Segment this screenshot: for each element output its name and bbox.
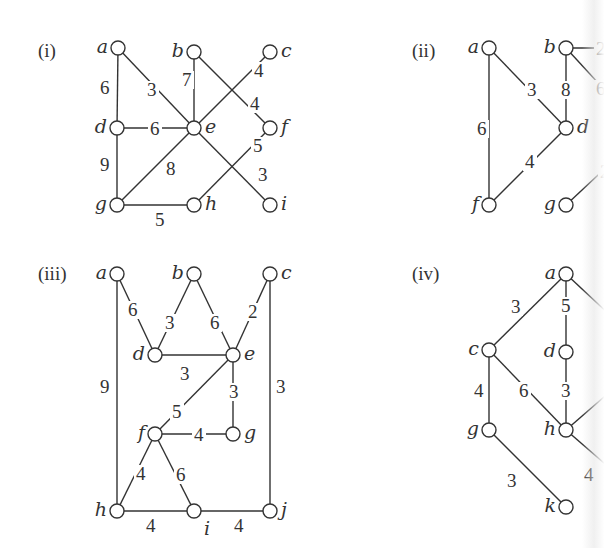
edge-weight-g-h: 5 (155, 209, 165, 230)
node-d (148, 348, 162, 362)
edge-weight-b-d: 8 (561, 79, 571, 100)
edge-weight-g-e: 8 (166, 158, 176, 179)
edge-e-f (155, 355, 233, 434)
node-label-d: d (544, 339, 556, 361)
node-g (226, 427, 240, 441)
node-f (148, 427, 162, 441)
node-label-a: a (545, 261, 556, 283)
node-label-f: f (279, 115, 291, 137)
node-f (482, 198, 496, 212)
node-c (263, 267, 277, 281)
node-h (110, 504, 124, 518)
graph-iii: (iii)69362335344644abcdefghij (38, 261, 292, 539)
edge-weight-i-j: 4 (234, 515, 244, 536)
edge-weight-c-g: 4 (474, 380, 484, 401)
edge-weight-h-f: 5 (253, 135, 263, 156)
node-g (482, 423, 496, 437)
node-h (559, 423, 573, 437)
node-e (187, 121, 201, 135)
node-a (111, 41, 125, 55)
graph-figure: (i)63744698553abcdefghi(ii)3684262abdfg(… (0, 0, 612, 548)
edge-weight-a-d: 3 (527, 79, 537, 100)
node-d (559, 121, 573, 135)
edge-weight-f-d: 4 (525, 151, 535, 172)
graph-title: (iii) (38, 263, 67, 285)
edge-weight-a-d: 6 (128, 299, 138, 320)
node-label-b: b (172, 39, 184, 61)
edge-weight-f-g: 4 (194, 424, 204, 445)
node-b (187, 267, 201, 281)
node-label-g: g (467, 417, 479, 439)
edge-weight-d-e: 6 (150, 118, 160, 139)
node-f (263, 121, 277, 135)
graph-i: (i)63744698553abcdefghi (38, 35, 292, 230)
edge-weight-b-d: 3 (165, 312, 175, 333)
edge-weight-d-g: 9 (100, 154, 110, 175)
edge-weight-a-c: 3 (511, 296, 521, 317)
edge-weight-c-j: 3 (276, 376, 286, 397)
node-k (559, 500, 573, 514)
node-label-a: a (468, 35, 479, 57)
node-c (263, 45, 277, 59)
node-label-i: i (204, 517, 210, 539)
edge-weight-f-h: 4 (136, 463, 146, 484)
node-label-h: h (544, 417, 556, 439)
node-h (187, 198, 201, 212)
node-label-e: e (244, 342, 255, 364)
edge-weight-e-g: 3 (229, 381, 239, 402)
edge-weight-e-i: 3 (258, 164, 268, 185)
node-b (187, 45, 201, 59)
node-label-g: g (95, 192, 107, 214)
edge-weight-c-h: 6 (519, 380, 529, 401)
right-edge-fade (582, 0, 612, 548)
node-label-g: g (544, 192, 556, 214)
node-label-b: b (544, 35, 556, 57)
node-d (559, 345, 573, 359)
node-label-e: e (205, 115, 216, 137)
node-g (110, 198, 124, 212)
node-i (187, 504, 201, 518)
edge-weight-a-d: 6 (100, 77, 110, 98)
edge-weight-a-d: 5 (561, 295, 571, 316)
edge-weight-e-c: 4 (254, 60, 264, 81)
node-label-h: h (95, 498, 107, 520)
node-b (559, 41, 573, 55)
node-i (263, 198, 277, 212)
edge-g-e (117, 128, 194, 205)
node-label-c: c (281, 261, 292, 283)
node-d (110, 121, 124, 135)
edge-weight-a-f: 6 (477, 118, 487, 139)
node-a (110, 267, 124, 281)
node-label-b: b (172, 261, 184, 283)
node-label-j: j (277, 498, 287, 520)
edge-weight-f-i: 6 (176, 464, 186, 485)
node-label-f: f (136, 421, 148, 443)
node-e (226, 348, 240, 362)
edge-weight-c-e: 2 (248, 301, 258, 322)
graph-title: (i) (38, 40, 56, 62)
node-label-a: a (97, 35, 108, 57)
node-label-d: d (95, 115, 107, 137)
edge-weight-b-e: 7 (182, 69, 192, 90)
node-g (559, 198, 573, 212)
node-label-c: c (468, 337, 479, 359)
edge-a-d (117, 48, 118, 128)
node-a (559, 267, 573, 281)
edge-weight-b-e: 6 (210, 312, 220, 333)
graph-title: (iv) (412, 263, 439, 285)
graph-title: (ii) (412, 40, 435, 62)
edge-weight-g-k: 3 (507, 470, 517, 491)
edge-weight-a-h: 9 (100, 376, 110, 397)
node-label-f: f (470, 192, 482, 214)
edge-weight-b-f: 4 (250, 93, 260, 114)
edge-weight-e-f: 5 (172, 401, 182, 422)
edge-weight-d-e: 3 (180, 363, 190, 384)
node-label-a: a (96, 261, 107, 283)
node-label-g: g (244, 421, 256, 443)
node-c (482, 343, 496, 357)
edge-weight-a-e: 3 (147, 79, 157, 100)
node-a (482, 41, 496, 55)
edge-weight-d-h: 3 (561, 380, 571, 401)
node-label-d: d (133, 342, 145, 364)
node-label-c: c (281, 39, 292, 61)
